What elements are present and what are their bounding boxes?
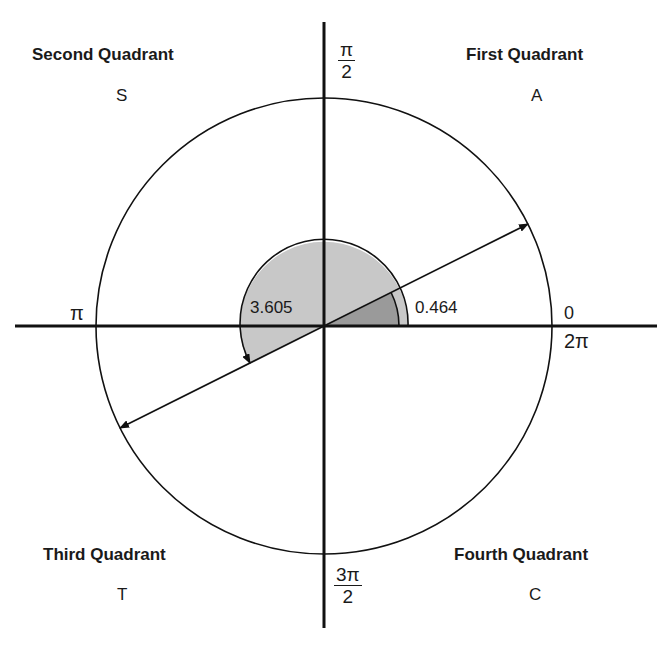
zero-label: 0 [564, 303, 574, 324]
pi-over-2-denominator: 2 [341, 61, 352, 81]
second-quadrant-letter: S [116, 86, 127, 106]
three-pi-over-2-numerator: 3π [334, 565, 362, 586]
pi-over-2-numerator: π [338, 40, 355, 61]
three-pi-over-2-denominator: 2 [343, 586, 354, 606]
large-angle-label: 3.605 [250, 298, 293, 318]
first-quadrant-title: First Quadrant [466, 45, 583, 65]
fourth-quadrant-title: Fourth Quadrant [454, 545, 588, 565]
pi-over-2-label: π 2 [338, 40, 355, 81]
diameter-line-third-quadrant [120, 326, 324, 428]
third-quadrant-letter: T [117, 585, 127, 605]
third-quadrant-title: Third Quadrant [43, 545, 166, 565]
fourth-quadrant-letter: C [529, 585, 541, 605]
second-quadrant-title: Second Quadrant [32, 45, 174, 65]
pi-label: π [70, 302, 84, 325]
small-angle-label: 0.464 [415, 298, 458, 318]
three-pi-over-2-label: 3π 2 [334, 565, 362, 606]
two-pi-label: 2π [564, 330, 589, 353]
first-quadrant-letter: A [531, 86, 542, 106]
